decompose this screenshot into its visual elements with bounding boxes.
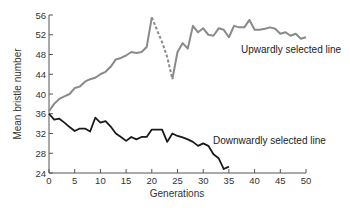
line-plot: 24283236404448525605101520253035404550 G…	[0, 0, 350, 208]
upward-series-line	[49, 17, 152, 111]
upward-series-line	[152, 17, 173, 79]
x-tick-label: 30	[198, 175, 209, 186]
x-tick-label: 40	[249, 175, 260, 186]
x-axis-title: Generations	[150, 188, 204, 199]
y-axis-title: Mean bristle number	[12, 48, 23, 140]
x-tick-label: 50	[301, 175, 312, 186]
x-tick-label: 45	[275, 175, 286, 186]
y-tick-label: 48	[35, 49, 46, 60]
y-tick-label: 32	[35, 128, 46, 139]
x-tick-label: 10	[95, 175, 106, 186]
x-tick-label: 0	[46, 175, 51, 186]
upward-series-label: Upwardly selected line	[241, 44, 341, 55]
y-tick-label: 28	[35, 148, 46, 159]
x-tick-label: 25	[172, 175, 183, 186]
y-tick-label: 24	[35, 168, 46, 179]
series-lines	[49, 17, 306, 169]
x-tick-label: 5	[72, 175, 77, 186]
downward-series-line	[49, 114, 229, 169]
downward-series-label: Downwardly selected line	[213, 135, 326, 146]
y-tick-label: 40	[35, 89, 46, 100]
y-tick-label: 56	[35, 10, 46, 21]
y-tick-label: 44	[35, 69, 46, 80]
y-tick-label: 36	[35, 108, 46, 119]
x-tick-label: 35	[224, 175, 235, 186]
bristle-selection-chart: 24283236404448525605101520253035404550 G…	[0, 0, 350, 208]
x-tick-label: 20	[147, 175, 158, 186]
x-tick-label: 15	[121, 175, 132, 186]
axes: 24283236404448525605101520253035404550	[35, 10, 311, 187]
y-tick-label: 52	[35, 29, 46, 40]
